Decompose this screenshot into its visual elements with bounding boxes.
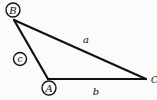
- side-a-label: a: [83, 34, 89, 45]
- vertex-b-label: B: [8, 5, 16, 16]
- side-c-line: [14, 20, 48, 79]
- side-b-label: b: [93, 86, 99, 97]
- triangle-diagram: B A C a b c: [0, 0, 157, 100]
- vertex-c-label: C: [151, 75, 157, 85]
- vertex-a: A: [42, 81, 56, 95]
- vertex-a-label: A: [44, 83, 52, 94]
- vertex-b: B: [6, 3, 20, 17]
- side-a-line: [14, 20, 146, 79]
- side-c-label: c: [17, 54, 22, 64]
- side-c: c: [14, 53, 27, 66]
